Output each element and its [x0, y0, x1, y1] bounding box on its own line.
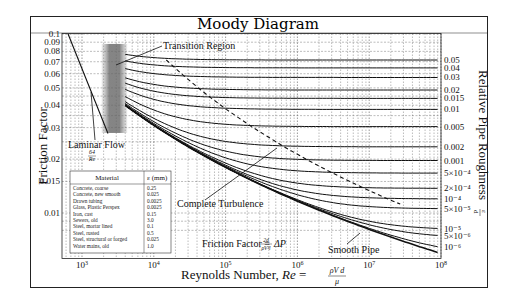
table-cell-material: Concrete, new smooth — [73, 191, 121, 197]
table-cell-epsilon: 0.25 — [147, 185, 157, 191]
transition-region-label: Transition Region — [163, 40, 235, 51]
table-cell-epsilon: 0.15 — [147, 211, 157, 217]
y-tick-label: 0.05 — [44, 83, 60, 93]
laminar-formula-num: 64 — [89, 149, 95, 155]
table-header-epsilon: ε (mm) — [147, 174, 168, 182]
laminar-formula-den: Re — [88, 156, 96, 162]
x-tick-label: 104 — [148, 260, 160, 270]
table-cell-material: Water mains, old — [73, 243, 109, 249]
x-axis-label-numerator: ρV d — [329, 266, 346, 275]
laminar-flow-label: Laminar Flow — [68, 139, 126, 150]
y-tick-label: 0.08 — [44, 46, 60, 56]
materials-table: Material ε (mm) Concrete, coarse0.25Conc… — [70, 171, 171, 253]
y-tick-label: 0.07 — [44, 57, 60, 67]
x-axis-label: Reynolds Number, Re = ρV d μ — [181, 266, 346, 286]
right-tick-label: 10⁻⁶ — [444, 242, 461, 252]
right-tick-label: 2×10⁻⁴ — [444, 183, 471, 193]
complete-turbulence-label: Complete Turbulence — [177, 198, 264, 209]
table-cell-epsilon: 1.0 — [147, 243, 154, 249]
right-axis-label-text: Relative Pipe Roughness — [476, 70, 491, 200]
svg-text:Reynolds Number, Re =: Reynolds Number, Re = — [181, 267, 306, 282]
table-cell-epsilon: 0.0025 — [147, 204, 162, 210]
table-cell-epsilon: 0.025 — [147, 191, 159, 197]
right-tick-label: 5×10⁻⁵ — [444, 204, 471, 214]
x-axis-label-text: Reynolds Number, — [181, 267, 282, 282]
table-cell-epsilon: 0.1 — [147, 223, 154, 229]
right-tick-label: 0.015 — [444, 93, 465, 103]
right-axis-d: d — [472, 210, 480, 214]
right-tick-label: 5×10⁻⁴ — [444, 168, 471, 178]
right-axis-eps: ε — [480, 210, 488, 213]
table-cell-material: Steel, rusted — [73, 230, 100, 236]
complete-turbulence-boundary — [166, 60, 400, 204]
x-axis-label-re: Re — [281, 267, 296, 282]
friction-formula-tail: ΔP — [273, 238, 286, 249]
x-axis-label-denominator: μ — [334, 277, 339, 286]
friction-factor-formula: Friction Factor = 2d ρV²l ΔP — [202, 237, 286, 251]
transition-band — [102, 44, 128, 133]
table-cell-material: Steel, mortar lined — [73, 223, 113, 229]
table-cell-material: Steel, structural or forged — [73, 236, 127, 242]
friction-formula-text: Friction Factor = — [202, 238, 270, 249]
right-tick-label: 10⁻⁴ — [444, 194, 461, 204]
y-axis-label: Friction Factor — [35, 107, 50, 185]
table-cell-epsilon: 3.0 — [147, 217, 154, 223]
friction-formula-num: 2d — [263, 237, 269, 243]
right-tick-label: 0.005 — [444, 122, 465, 132]
right-axis-label: Relative Pipe Roughness ε d — [472, 70, 491, 216]
y-tick-label: 0.01 — [44, 208, 60, 218]
table-header-material: Material — [95, 174, 119, 182]
smooth-pipe-label: Smooth Pipe — [328, 244, 380, 255]
right-tick-label: 0.04 — [444, 63, 460, 73]
table-cell-material: Drawn tubing — [73, 198, 103, 204]
y-tick-label: 0.06 — [44, 69, 60, 79]
moody-chart: Moody Diagram 0.10.090.080.070.060.050.0… — [0, 0, 516, 306]
table-cell-material: Sewers, old — [73, 217, 98, 223]
right-tick-label: 0.01 — [444, 104, 460, 114]
right-axis-ticks: 0.050.040.030.020.0150.010.0050.0020.001… — [444, 55, 471, 252]
table-cell-material: Glass, Plastic Perspex — [73, 204, 120, 210]
table-cell-material: Concrete, coarse — [73, 185, 109, 191]
chart-title: Moody Diagram — [197, 15, 319, 33]
right-tick-label: 0.001 — [444, 156, 464, 166]
right-tick-label: 0.03 — [444, 72, 460, 82]
friction-formula-den: ρV²l — [260, 245, 271, 251]
x-tick-label: 108 — [435, 260, 447, 270]
table-cell-epsilon: 0.0025 — [147, 198, 162, 204]
table-cell-epsilon: 0.5 — [147, 230, 154, 236]
table-cell-epsilon: 0.025 — [147, 236, 159, 242]
table-cell-material: Iron, cast — [73, 211, 93, 217]
complete-turbulence-arrow — [205, 148, 277, 200]
x-tick-label: 103 — [76, 260, 88, 270]
right-tick-label: 5×10⁻⁶ — [444, 231, 471, 241]
right-tick-label: 0.002 — [444, 142, 464, 152]
x-tick-label: 107 — [363, 260, 375, 270]
